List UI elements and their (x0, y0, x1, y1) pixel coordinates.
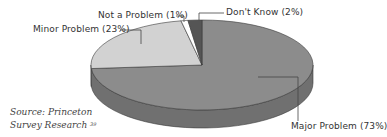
source-text-line1: Source: Princeton (10, 107, 92, 117)
leader-line-dont-know (199, 13, 224, 20)
source-text-line2: Survey Research (10, 120, 87, 130)
label-major-problem: Major Problem (73%) (291, 121, 387, 131)
label-not-a-problem: Not a Problem (1%) (98, 10, 188, 20)
label-dont-know: Don't Know (2%) (226, 7, 303, 17)
label-minor-problem: Minor Problem (23%) (33, 24, 130, 34)
footnote-marker: 39 (90, 121, 96, 127)
source-note: Source: Princeton Survey Research 39 (10, 106, 96, 132)
